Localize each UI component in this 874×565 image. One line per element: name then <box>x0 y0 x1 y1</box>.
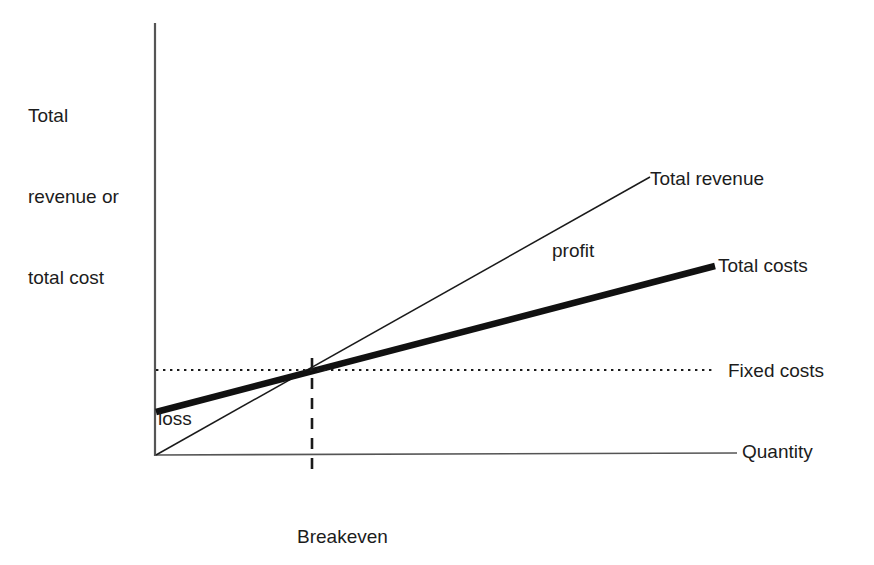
breakeven-point-label: Breakeven point <box>297 469 417 565</box>
y-axis-title-line-3: total cost <box>28 264 158 291</box>
total-revenue-label: Total revenue <box>650 165 764 192</box>
total-revenue-line <box>156 177 650 455</box>
fixed-costs-label: Fixed costs <box>728 357 824 384</box>
total-costs-label: Total costs <box>718 252 808 279</box>
loss-region-label: loss <box>158 405 192 432</box>
y-axis-title-line-1: Total <box>28 102 158 129</box>
y-axis-title: Total revenue or total cost <box>28 48 158 345</box>
x-axis-line <box>155 453 737 455</box>
breakeven-chart: Total revenue or total cost Total revenu… <box>0 0 874 565</box>
y-axis-title-line-2: revenue or <box>28 183 158 210</box>
profit-region-label: profit <box>552 237 594 264</box>
x-axis-title: Quantity <box>742 438 813 465</box>
breakeven-point-label-line-1: Breakeven <box>297 523 417 550</box>
total-costs-line <box>156 266 715 412</box>
